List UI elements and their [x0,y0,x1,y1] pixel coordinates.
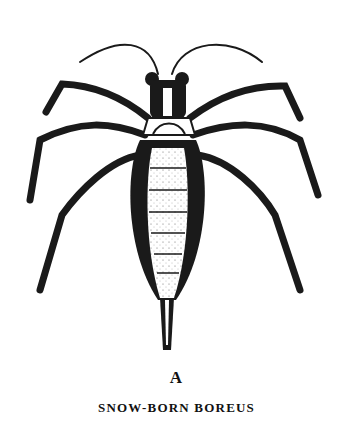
boreus-illustration [0,0,353,360]
figure-caption: SNOW-BORN BOREUS [0,400,353,416]
plate-letter: A [0,368,353,388]
